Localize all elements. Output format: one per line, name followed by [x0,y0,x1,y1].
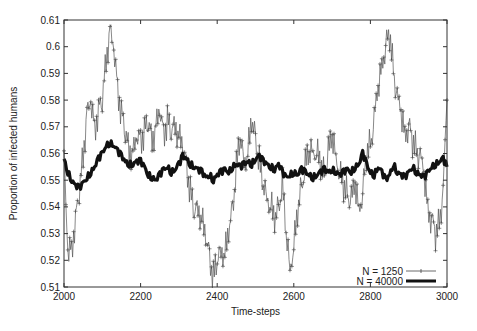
y-axis-title: Proportion of infected humans [8,87,19,220]
y-tick-label: 0.52 [41,255,61,266]
y-tick-label: 0.54 [41,201,61,212]
y-tick-label: 0.57 [41,121,61,132]
series-n40000-line [64,141,447,189]
x-tick-label: 2200 [129,291,152,302]
plot-area [62,24,449,287]
legend-label-n40000: N = 40000 [357,276,404,287]
x-tick-label: 2400 [206,291,229,302]
y-tick-label: 0.53 [41,228,61,239]
y-tick-label: 0.55 [41,175,61,186]
x-tick-label: 3000 [436,291,459,302]
y-tick-label: 0.56 [41,148,61,159]
legend-swatch-n1250 [406,269,436,273]
x-axis-title: Time-steps [231,306,280,317]
x-tick-label: 2000 [53,291,76,302]
series-n1250-markers [62,24,449,272]
line-chart: 0.510.520.530.540.550.560.570.580.590.60… [0,0,477,331]
y-tick-label: 0.58 [41,95,61,106]
axes: 0.510.520.530.540.550.560.570.580.590.60… [41,15,459,303]
x-tick-label: 2600 [283,291,306,302]
y-tick-label: 0.61 [41,15,61,26]
legend: N = 1250 N = 40000 [357,266,436,287]
y-tick-label: 0.59 [41,68,61,79]
y-tick-label: 0.6 [46,41,60,52]
x-tick-label: 2800 [359,291,382,302]
